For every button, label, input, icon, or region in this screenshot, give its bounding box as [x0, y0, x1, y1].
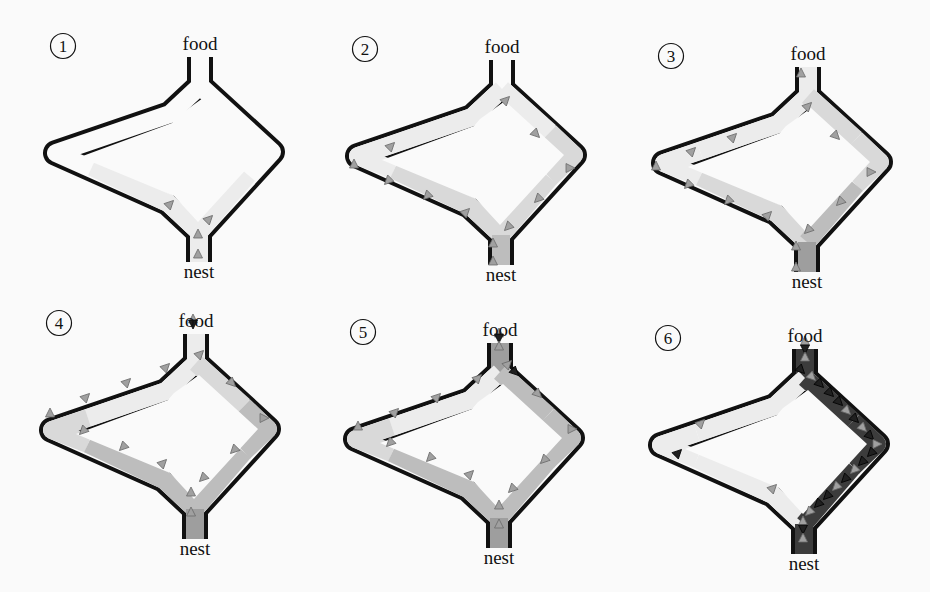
food-label: food	[179, 310, 214, 331]
step-number: 2	[361, 40, 370, 59]
step-number: 5	[359, 323, 368, 342]
panel-1: foodnest1	[51, 33, 273, 282]
nest-label: nest	[789, 553, 820, 574]
ant-icon	[121, 375, 134, 388]
food-label: food	[485, 36, 520, 57]
panel-2: foodnest2	[350, 36, 576, 285]
step-number: 1	[59, 37, 68, 56]
nest-label: nest	[484, 547, 515, 568]
ant-trail-diagram: foodnest1foodnest2foodnest3foodnest4food…	[0, 0, 930, 592]
nest-label: nest	[180, 538, 211, 559]
panel-3: foodnest3	[652, 43, 881, 292]
nest-label: nest	[792, 271, 823, 292]
food-label: food	[483, 319, 518, 340]
food-label: food	[788, 325, 823, 346]
ant-icon	[46, 408, 55, 417]
food-label: food	[183, 33, 218, 54]
step-number: 6	[664, 329, 673, 348]
nest-label: nest	[486, 264, 517, 285]
ant-icon	[80, 390, 93, 403]
panel-5: foodnest5	[351, 319, 578, 568]
panel-4: foodnest4	[46, 310, 270, 559]
step-number: 4	[55, 314, 64, 333]
food-label: food	[791, 43, 826, 64]
panel-6: foodnest6	[656, 325, 883, 574]
nest-label: nest	[184, 261, 215, 282]
step-number: 3	[667, 47, 676, 66]
